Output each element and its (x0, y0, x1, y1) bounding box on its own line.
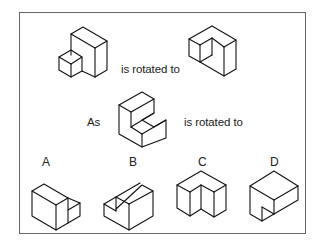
prompt-caption: is rotated to (184, 116, 243, 128)
example-rotated-figure (189, 26, 236, 76)
option-d-figure[interactable] (250, 171, 298, 221)
example-original-figure (59, 27, 107, 77)
option-c-label[interactable]: C (198, 155, 207, 169)
option-d-label[interactable]: D (270, 155, 279, 169)
option-a-label[interactable]: A (42, 155, 50, 169)
option-b-label[interactable]: B (129, 155, 137, 169)
figures-canvas (0, 0, 323, 249)
option-c-figure[interactable] (177, 171, 226, 217)
option-b-figure[interactable] (104, 183, 153, 230)
prompt-prefix: As (87, 116, 100, 128)
example-caption: is rotated to (121, 63, 180, 75)
option-a-figure[interactable] (32, 184, 80, 230)
prompt-figure (119, 92, 166, 147)
